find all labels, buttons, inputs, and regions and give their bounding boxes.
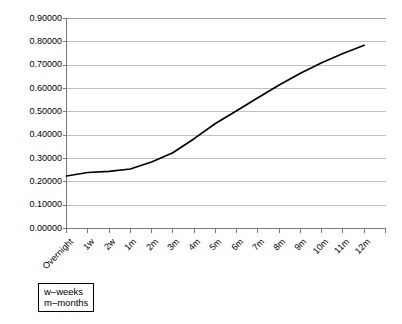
line-chart: 0.000000.100000.200000.300000.400000.500… <box>0 0 402 324</box>
legend-item-months: m–months <box>44 297 88 308</box>
legend-box: w–weeks m–months <box>38 283 94 312</box>
legend-item-weeks: w–weeks <box>44 286 88 297</box>
x-axis-tick-labels: Overnight1w2w1m2m3m4m5m6m7m8m9m10m11m12m <box>0 0 402 324</box>
